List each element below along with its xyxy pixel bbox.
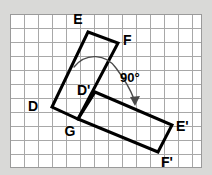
geometry-diagram-svg: E F D G D' E' F' 90° <box>0 0 212 175</box>
vertex-label-f-prime: F' <box>161 154 173 170</box>
rotation-figure: E F D G D' E' F' 90° <box>0 0 212 175</box>
rotation-angle-label: 90° <box>120 70 140 85</box>
vertex-label-d: D <box>28 98 38 114</box>
vertex-label-e: E <box>73 11 82 27</box>
vertex-label-e-prime: E' <box>176 118 189 134</box>
vertex-label-f: F <box>123 32 132 48</box>
vertex-label-g: G <box>65 123 76 139</box>
vertex-label-d-prime: D' <box>77 82 90 98</box>
